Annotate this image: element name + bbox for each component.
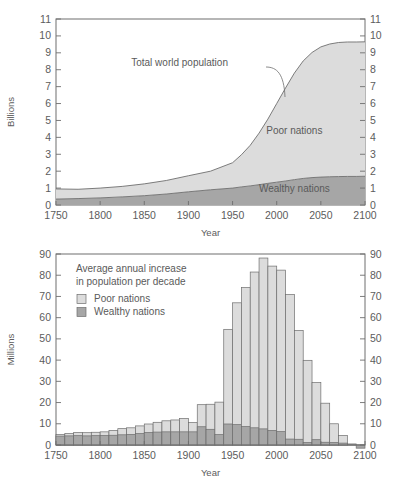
- top-xtick-label: 1850: [133, 209, 157, 221]
- bottom-ytick-label-left: 40: [39, 354, 51, 366]
- bottom-bar-wealthy: [91, 436, 100, 445]
- bottom-bar-wealthy: [162, 432, 171, 445]
- top-ytick-label-left: 11: [40, 13, 51, 25]
- bottom-bar-wealthy: [224, 424, 233, 445]
- bottom-bar-wealthy: [250, 428, 259, 445]
- bottom-ytick-label-right: 50: [370, 332, 382, 344]
- top-xtick-label: 2050: [309, 209, 333, 221]
- top-ytick-label-left: 2: [45, 165, 51, 177]
- top-ytick-label-right: 1: [370, 182, 376, 194]
- bottom-ytick-label-right: 40: [370, 354, 382, 366]
- top-ytick-label-left: 10: [39, 29, 51, 41]
- bottom-bar-wealthy: [294, 439, 303, 445]
- bottom-bar-poor: [268, 266, 277, 445]
- top-ytick-label-right: 4: [370, 131, 376, 143]
- bottom-bar-wealthy: [56, 436, 65, 445]
- legend-swatch-poor: [77, 295, 86, 304]
- bottom-bar-wealthy: [100, 435, 109, 445]
- bottom-bar-wealthy: [268, 430, 277, 445]
- top-ytick-label-right: 9: [370, 46, 376, 58]
- bottom-bar-wealthy: [188, 432, 197, 445]
- bottom-ytick-label-right: 80: [370, 269, 382, 281]
- top-annotation-total-world-population: Total world population: [131, 57, 228, 68]
- legend-label-wealthy: Wealthy nations: [94, 306, 165, 317]
- bottom-ytick-label-left: 70: [39, 290, 51, 302]
- top-ytick-label-left: 4: [45, 131, 51, 143]
- top-ytick-label-right: 2: [370, 165, 376, 177]
- bottom-bar-wealthy: [135, 434, 144, 445]
- top-ytick-label-left: 9: [45, 46, 51, 58]
- bottom-bar-wealthy: [356, 445, 365, 448]
- bottom-bar-wealthy: [127, 434, 136, 445]
- bottom-title-line-2: in population per decade: [76, 276, 186, 287]
- legend-label-poor: Poor nations: [94, 293, 150, 304]
- bottom-yaxis-title: Millions: [5, 333, 16, 365]
- bottom-xaxis-title: Year: [201, 467, 220, 478]
- bottom-ytick-label-right: 70: [370, 290, 382, 302]
- bottom-bar-wealthy: [180, 432, 189, 445]
- bottom-bar-poor: [250, 272, 259, 445]
- bottom-bar-wealthy: [197, 427, 206, 445]
- bottom-bar-wealthy: [215, 435, 224, 445]
- top-xtick-label: 1950: [221, 209, 245, 221]
- bottom-bar-wealthy: [312, 440, 321, 445]
- bottom-xtick-label: 2100: [353, 449, 377, 461]
- bottom-xtick-label: 1850: [133, 449, 157, 461]
- bottom-bar-poor: [233, 303, 242, 445]
- legend-swatch-wealthy: [77, 308, 86, 317]
- top-chart: 0011223344556677889910101111175018001850…: [5, 13, 382, 239]
- top-xtick-label: 1900: [177, 209, 201, 221]
- top-ytick-label-left: 6: [45, 97, 51, 109]
- bottom-bar-poor: [241, 288, 250, 445]
- bottom-bar-poor: [259, 258, 268, 445]
- top-ytick-label-right: 11: [370, 13, 381, 25]
- bottom-ytick-label-left: 60: [39, 311, 51, 323]
- top-ytick-label-right: 10: [370, 29, 382, 41]
- top-annotation-wealthy-nations: Wealthy nations: [259, 183, 330, 194]
- bottom-bar-poor: [330, 424, 339, 445]
- bottom-xtick-label: 1750: [44, 449, 68, 461]
- top-ytick-label-left: 3: [45, 148, 51, 160]
- bottom-bar-wealthy: [277, 432, 286, 445]
- top-annotation-poor-nations: Poor nations: [266, 125, 322, 136]
- bottom-bar-wealthy: [171, 432, 180, 445]
- bottom-bar-wealthy: [82, 436, 91, 445]
- bottom-bar-wealthy: [233, 425, 242, 445]
- bottom-ytick-label-left: 90: [39, 248, 51, 260]
- top-ytick-label-left: 8: [45, 63, 51, 75]
- figure-svg: 0011223344556677889910101111175018001850…: [0, 0, 405, 493]
- bottom-ytick-label-left: 30: [39, 375, 51, 387]
- bottom-xtick-label: 2000: [265, 449, 289, 461]
- bottom-bar-poor: [294, 330, 303, 445]
- bottom-xtick-label: 1800: [88, 449, 112, 461]
- bottom-bar-wealthy: [144, 432, 153, 445]
- top-ytick-label-left: 1: [45, 182, 51, 194]
- bottom-ytick-label-left: 80: [39, 269, 51, 281]
- bottom-bar-poor: [277, 270, 286, 445]
- bottom-ytick-label-right: 30: [370, 375, 382, 387]
- top-xaxis-title: Year: [201, 227, 220, 238]
- top-xtick-label: 2000: [265, 209, 289, 221]
- bottom-ytick-label-left: 50: [39, 332, 51, 344]
- bottom-bar-wealthy: [118, 435, 127, 445]
- bottom-bar-wealthy: [286, 439, 295, 445]
- bottom-chart: 0010102020303040405050606070708080909017…: [5, 248, 382, 479]
- top-xtick-label: 1800: [88, 209, 112, 221]
- top-ytick-label-right: 5: [370, 114, 376, 126]
- top-xtick-label: 2100: [353, 209, 377, 221]
- bottom-xtick-label: 1900: [177, 449, 201, 461]
- bottom-bar-wealthy: [259, 429, 268, 445]
- bottom-bar-wealthy: [109, 435, 118, 445]
- top-ytick-label-left: 5: [45, 114, 51, 126]
- population-figure: 0011223344556677889910101111175018001850…: [0, 0, 405, 493]
- top-ytick-label-right: 3: [370, 148, 376, 160]
- top-ytick-label-right: 8: [370, 63, 376, 75]
- top-xtick-label: 1750: [44, 209, 68, 221]
- bottom-bar-wealthy: [241, 427, 250, 445]
- bottom-title-line-1: Average annual increase: [76, 263, 187, 274]
- top-yaxis-title: Billions: [5, 97, 16, 127]
- bottom-bar-wealthy: [153, 432, 162, 445]
- bottom-xtick-label: 1950: [221, 449, 245, 461]
- top-ytick-label-right: 7: [370, 80, 376, 92]
- bottom-ytick-label-right: 10: [370, 417, 382, 429]
